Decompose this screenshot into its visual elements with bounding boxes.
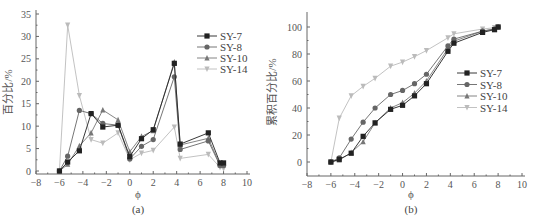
x-tick-label: 4	[448, 179, 453, 190]
y-tick-label: 15	[21, 98, 31, 109]
sy-7-marker	[400, 103, 405, 108]
y-tick-label: 60	[292, 76, 302, 87]
sy-7-marker	[496, 24, 501, 29]
chart-a-percentage: −8−6−4−2024681005101520253035ϕ百分比/%(a)SY…	[2, 9, 252, 217]
y-tick-label: 20	[292, 130, 302, 141]
sy-14-marker	[77, 93, 82, 99]
sy-8-marker	[206, 138, 211, 143]
sy-14-marker	[388, 64, 393, 70]
y-tick-label: 35	[21, 9, 31, 20]
sy-8-marker	[349, 136, 354, 141]
sy-8-marker	[445, 43, 450, 48]
sy-7-marker	[127, 154, 132, 159]
sy-14-marker	[337, 116, 342, 122]
sy-8-marker	[388, 92, 393, 97]
sy-7-marker	[361, 134, 366, 139]
series-sy-10	[57, 59, 226, 174]
sy-7-marker	[206, 130, 211, 135]
legend-sy-8-marker	[204, 44, 209, 49]
sy-7-marker	[388, 107, 393, 112]
sy-7-marker	[57, 168, 62, 173]
legend-label: SY-10	[480, 90, 508, 102]
legend-sy-7-marker	[204, 33, 209, 38]
series-sy-14	[57, 23, 226, 174]
sy-8-marker	[400, 88, 405, 93]
legend-label: SY-8	[480, 79, 503, 91]
y-tick-label: 0	[26, 166, 31, 177]
legend-label: SY-14	[480, 102, 508, 114]
sy-14-marker	[100, 141, 105, 147]
y-tick-label: 0	[297, 157, 302, 168]
x-tick-label: −2	[101, 177, 112, 188]
y-axis-title: 累积百分比/%	[266, 58, 278, 125]
sy-7-marker	[115, 123, 120, 128]
sy-7-marker	[88, 111, 93, 116]
x-tick-label: 0	[127, 177, 132, 188]
x-tick-label: 2	[424, 179, 429, 190]
series-sy-7	[57, 61, 226, 174]
subfigure-caption: (b)	[405, 203, 418, 216]
x-tick-label: −6	[54, 177, 65, 188]
sy-7-marker	[172, 61, 177, 66]
sy-14-marker	[451, 31, 456, 37]
y-tick-label: 30	[21, 31, 31, 42]
sy-7-marker	[65, 159, 70, 164]
x-tick-label: −8	[302, 179, 313, 190]
sy-8-marker	[178, 147, 183, 152]
sy-8-marker	[151, 137, 156, 142]
x-tick-label: 4	[174, 177, 179, 188]
sy-7-marker	[77, 148, 82, 153]
sy-14-marker	[178, 156, 183, 162]
x-tick-label: 6	[198, 177, 203, 188]
x-tick-label: 6	[472, 179, 477, 190]
sy-10-marker	[115, 117, 120, 123]
series-sy-8	[57, 74, 226, 173]
x-tick-label: 2	[151, 177, 156, 188]
sy-7-marker	[349, 151, 354, 156]
x-tick-label: 10	[517, 179, 527, 190]
sy-14-marker	[349, 93, 354, 99]
sy-14-marker	[361, 84, 366, 90]
legend-item-sy-10: SY-10	[457, 90, 508, 102]
sy-7-marker	[480, 30, 485, 35]
x-tick-label: −6	[326, 179, 337, 190]
x-tick-label: 10	[242, 177, 252, 188]
y-tick-label: 10	[21, 121, 31, 132]
legend-label: SY-14	[220, 63, 248, 75]
sy-14-marker	[412, 54, 417, 60]
subfigure-caption: (a)	[132, 203, 145, 216]
legend: SY-7SY-8SY-10SY-14	[197, 30, 248, 75]
y-tick-label: 100	[287, 22, 302, 33]
legend-label: SY-7	[480, 67, 503, 79]
x-tick-label: −2	[373, 179, 384, 190]
legend-item-sy-14: SY-14	[457, 102, 508, 114]
sy-8-marker	[139, 144, 144, 149]
sy-14-marker	[445, 35, 450, 41]
legend-item-sy-8: SY-8	[457, 79, 503, 91]
y-tick-label: 40	[292, 103, 302, 114]
sy-7-marker	[178, 141, 183, 146]
sy-14-marker	[65, 23, 70, 29]
legend-sy-7-marker	[464, 70, 469, 75]
sy-8-marker	[77, 108, 82, 113]
sy-7-marker	[221, 160, 226, 165]
x-tick-label: 8	[221, 177, 226, 188]
legend-sy-8-marker	[464, 82, 469, 87]
legend: SY-7SY-8SY-10SY-14	[457, 67, 508, 114]
sy-7-marker	[412, 93, 417, 98]
x-tick-label: 8	[496, 179, 501, 190]
sy-8-marker	[65, 154, 70, 159]
x-tick-label: 0	[400, 179, 405, 190]
x-axis-title: ϕ	[408, 188, 414, 200]
sy-14-marker	[372, 76, 377, 82]
y-axis-title: 百分比/%	[2, 69, 14, 114]
x-tick-label: −4	[349, 179, 360, 190]
chart-b-cumulative-percentage: −8−6−4−20246810020406080100ϕ累积百分比/%(b)SY…	[266, 12, 527, 216]
series-sy-7	[328, 24, 500, 164]
sy-7-marker	[151, 127, 156, 132]
sy-14-marker	[424, 48, 429, 54]
y-tick-label: 5	[26, 143, 31, 154]
sy-8-marker	[412, 81, 417, 86]
y-tick-label: 80	[292, 49, 302, 60]
sy-7-marker	[451, 41, 456, 46]
